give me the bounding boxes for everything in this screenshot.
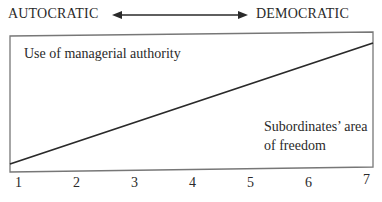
tick-3: 3 — [131, 175, 138, 191]
tick-7: 7 — [363, 172, 370, 188]
arrow-head-left-icon — [112, 11, 122, 19]
arrow-head-right-icon — [238, 11, 248, 19]
diagram-graphics — [0, 0, 382, 202]
autocratic-label: AUTOCRATIC — [8, 6, 98, 22]
democratic-label: DEMOCRATIC — [256, 6, 349, 22]
tick-2: 2 — [73, 175, 80, 191]
managerial-authority-label: Use of managerial authority — [24, 44, 181, 63]
subordinates-freedom-label-line2: of freedom — [264, 136, 326, 155]
tick-5: 5 — [247, 175, 254, 191]
subordinates-freedom-label-line1: Subordinates’ area — [264, 117, 368, 136]
tick-1: 1 — [15, 175, 22, 191]
tick-4: 4 — [189, 175, 196, 191]
tick-6: 6 — [305, 175, 312, 191]
